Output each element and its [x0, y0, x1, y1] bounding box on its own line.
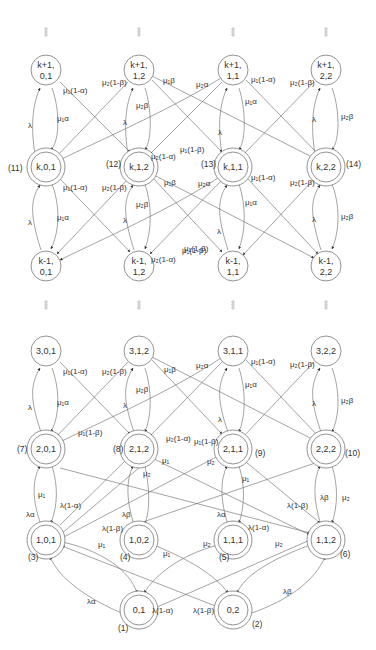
transition-rate-label: μ₁(1-α) — [251, 173, 276, 182]
state-node: 2,2,2(10) — [307, 430, 360, 468]
transition-rate-label: μ₁(1-β) — [180, 145, 205, 154]
node-label: k,0,1 — [36, 162, 56, 172]
state-number: (12) — [106, 159, 121, 169]
ellipsis-icon — [232, 28, 234, 36]
transition-rate-label: λα — [87, 597, 96, 606]
node-label: 2,1,1 — [223, 444, 243, 454]
ellipsis-icon — [138, 28, 140, 36]
transition-rate-label: μ₁(1-β) — [78, 428, 103, 437]
state-node: k-1,1,1 — [218, 251, 248, 281]
transition-rate-label: μ₂ — [342, 493, 350, 502]
node-label: 1,1 — [227, 71, 240, 81]
node-label: 0,1 — [133, 605, 146, 615]
transition-rate-label: μ₂β — [341, 396, 354, 405]
transition-rate-label: μ₂(1-β) — [290, 78, 315, 87]
transition-rate-label: μ₂(1-β) — [290, 178, 315, 187]
state-node: 2,1,2(8) — [113, 430, 158, 468]
ellipsis-icon — [325, 301, 327, 309]
node-label: k+1, — [224, 60, 241, 70]
transition-rate-label: μ₁ — [38, 490, 46, 499]
state-transition-diagram: k+1,0,1k+1,1,2k+1,1,1k+1,2,2k,0,1(11)k,1… — [0, 0, 376, 650]
transition-rate-label: μ₁β — [164, 178, 176, 187]
transition-rate-label: λ(1-β) — [287, 501, 308, 510]
transition-rate-label: μ₁(1-β) — [184, 244, 209, 253]
transition-rate-label: μ₁(1-α) — [63, 367, 88, 376]
transition-rate-label: λα — [217, 510, 226, 519]
state-node: 3,1,1 — [218, 336, 248, 366]
state-node: 2,1,1(9) — [214, 430, 266, 468]
node-label: 1,1 — [227, 267, 240, 277]
node-label: k,2,2 — [316, 162, 336, 172]
transition-rate-label: μ₁(1-α) — [63, 183, 88, 192]
state-number: (8) — [113, 444, 124, 454]
transition-rate-label: μ₂β — [341, 112, 354, 121]
transition-rate-label: μ₂(1-β) — [102, 367, 127, 376]
state-node: 1,1,1(5) — [214, 521, 252, 562]
transition-rate-label: μ₂(1-β) — [290, 360, 315, 369]
state-node: 3,0,1 — [31, 336, 61, 366]
transition-rate-label: μ₁ — [242, 474, 250, 483]
node-label: 0,2 — [227, 605, 240, 615]
transition-rate-label: λ(1-β) — [102, 524, 123, 533]
transition-rate-label: μ₂β — [136, 101, 149, 110]
state-nodes: k+1,0,1k+1,1,2k+1,1,1k+1,2,2k,0,1(11)k,1… — [8, 55, 361, 633]
node-label: k+1, — [317, 60, 334, 70]
state-node: k-1,0,1 — [31, 251, 61, 281]
transition-rate-label: λ — [123, 216, 127, 225]
transition-rate-label: μ₁β — [163, 76, 175, 85]
transition-rate-label: μ₂β — [136, 200, 149, 209]
transition-rate-label: μ₁α — [57, 213, 69, 222]
transition-rate-label: λ(1-α) — [60, 501, 81, 510]
transition-rate-label: λ — [218, 415, 222, 424]
transition-rate-label: λ — [218, 128, 222, 137]
transition-rate-label: μ₁α — [245, 97, 257, 106]
transition-rate-label: μ₁(1-β) — [194, 437, 219, 446]
state-node: 2,0,1(7) — [17, 430, 65, 468]
transition-rate-label: μ₂(1-α) — [151, 255, 176, 264]
ellipsis-icon — [45, 301, 47, 309]
transition-rate-label: μ₂β — [136, 385, 149, 394]
node-label: k,1,2 — [129, 162, 149, 172]
transition-rate-label: λ(1-α) — [248, 523, 269, 532]
state-node: k+1,0,1 — [31, 55, 61, 85]
state-node: k-1,1,2 — [124, 251, 154, 281]
transition-rate-label: μ₂ — [203, 539, 211, 548]
state-node: k,2,2(14) — [307, 148, 361, 186]
transition-rate-label: μ₁ — [98, 540, 106, 549]
transition-rate-label: μ₁(1-α) — [251, 357, 276, 366]
state-node: k+1,1,1 — [218, 55, 248, 85]
transition-rate-label: μ₁α — [57, 398, 69, 407]
node-label: k+1, — [37, 60, 54, 70]
node-label: 1,1,2 — [316, 535, 336, 545]
transition-rate-label: μ₂(1-α) — [166, 434, 191, 443]
state-node: k,0,1(11) — [8, 148, 65, 186]
node-label: k-1, — [225, 256, 240, 266]
transition-rate-label: μ₁ — [163, 549, 171, 558]
state-node: k+1,1,2 — [124, 55, 154, 85]
transition-rate-label: μ₁α — [57, 114, 69, 123]
state-node: 1,1,2(6) — [307, 521, 351, 559]
ellipsis-icon — [45, 28, 47, 36]
transition-rate-label: λ — [123, 401, 127, 410]
transition-rate-label: μ₂ — [275, 539, 283, 548]
node-label: 3,1,2 — [129, 346, 149, 356]
state-node: 0,2(2) — [214, 591, 263, 629]
transition-rate-label: λ — [28, 121, 32, 130]
node-label: 1,2 — [133, 71, 146, 81]
ellipsis-icon — [232, 301, 234, 309]
transition-rate-label: μ₁α — [245, 198, 257, 207]
transition-rate-label: λ — [312, 215, 316, 224]
node-label: 2,0,1 — [36, 444, 56, 454]
transition-rate-label: μ₂ — [143, 469, 151, 478]
node-label: 2,2 — [320, 71, 333, 81]
transition-rate-label: λ(1-α) — [152, 606, 173, 615]
node-label: k-1, — [318, 256, 333, 266]
transition-rate-label: λ — [312, 399, 316, 408]
transition-rate-label: λβ — [320, 493, 329, 502]
transition-rate-label: μ₂β — [341, 212, 354, 221]
node-label: k,1,1 — [223, 162, 243, 172]
node-label: 1,2 — [133, 267, 146, 277]
node-label: 1,0,1 — [36, 535, 56, 545]
state-number: (5) — [219, 552, 230, 562]
transition-rate-label: λ — [123, 118, 127, 127]
